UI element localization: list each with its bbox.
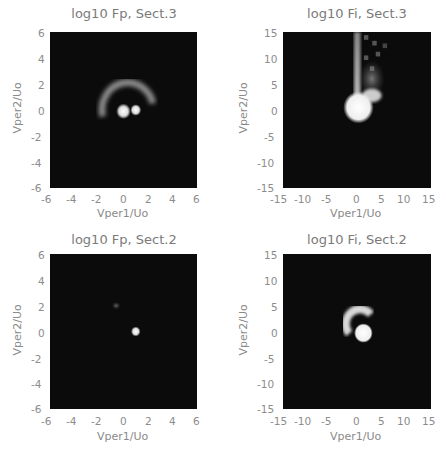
x-tick: 10	[397, 193, 410, 205]
x-tick: 4	[169, 193, 176, 205]
x-tick: 4	[169, 415, 176, 427]
x-tick: -5	[321, 415, 331, 427]
x-axis-label: Vper1/Uo	[330, 430, 381, 443]
x-tick: 2	[145, 193, 152, 205]
x-tick: -6	[41, 415, 51, 427]
x-tick: 10	[397, 415, 410, 427]
x-tick: 5	[378, 415, 385, 427]
x-tick: -6	[41, 193, 51, 205]
x-axis-label: Vper1/Uo	[330, 207, 381, 220]
x-axis-label: Vper1/Uo	[97, 207, 148, 220]
y-tick: -2	[31, 131, 41, 143]
y-axis-label: Vper2/Uo	[237, 306, 250, 356]
chart-title: log10 Fi, Sect.3	[283, 6, 431, 21]
x-tick: 6	[193, 193, 200, 205]
heatmap-plot-area	[50, 254, 197, 409]
x-tick: -2	[91, 193, 101, 205]
y-tick: 0	[38, 327, 45, 339]
x-tick: 15	[422, 193, 435, 205]
y-axis-label: Vper2/Uo	[11, 84, 24, 134]
y-tick: 0	[271, 105, 278, 117]
y-tick: -5	[264, 353, 274, 365]
x-tick: -15	[270, 415, 287, 427]
x-tick: -15	[270, 193, 287, 205]
y-tick: -6	[31, 182, 41, 194]
x-tick: -10	[294, 193, 311, 205]
y-tick: 10	[264, 53, 277, 65]
heatmap-image	[50, 254, 197, 409]
x-tick: 0	[353, 193, 360, 205]
y-axis-label: Vper2/Uo	[11, 306, 24, 356]
x-tick: -4	[66, 415, 76, 427]
y-tick: 6	[38, 27, 45, 39]
chart-title: log10 Fp, Sect.3	[50, 6, 198, 21]
x-tick: 15	[422, 415, 435, 427]
y-tick: -5	[264, 131, 274, 143]
y-tick: 2	[38, 79, 45, 91]
y-tick: 15	[264, 27, 277, 39]
y-tick: 2	[38, 301, 45, 313]
chart-title: log10 Fi, Sect.2	[283, 232, 431, 247]
y-tick: -4	[31, 157, 41, 169]
y-axis-label: Vper2/Uo	[237, 84, 250, 134]
y-tick: 15	[264, 249, 277, 261]
x-tick: 0	[120, 193, 127, 205]
y-tick: -15	[257, 403, 274, 415]
x-tick: -10	[294, 415, 311, 427]
y-tick: 10	[264, 275, 277, 287]
y-tick: -2	[31, 353, 41, 365]
y-tick: -4	[31, 378, 41, 390]
y-tick: 5	[271, 301, 278, 313]
x-tick: -4	[66, 193, 76, 205]
x-tick: 2	[145, 415, 152, 427]
heatmap-plot-area	[283, 32, 431, 188]
y-tick: -10	[257, 157, 274, 169]
x-tick: 6	[193, 415, 200, 427]
x-axis-label: Vper1/Uo	[97, 430, 148, 443]
y-tick: -6	[31, 403, 41, 415]
x-tick: -5	[321, 193, 331, 205]
y-tick: 0	[271, 327, 278, 339]
y-tick: -10	[257, 378, 274, 390]
x-tick: 0	[120, 415, 127, 427]
y-tick: 5	[271, 79, 278, 91]
x-tick: -2	[91, 415, 101, 427]
heatmap-image	[50, 32, 197, 188]
y-tick: 4	[38, 275, 45, 287]
y-tick: 4	[38, 53, 45, 65]
x-tick: 0	[353, 415, 360, 427]
heatmap-image	[283, 254, 431, 409]
heatmap-image	[283, 32, 431, 188]
heatmap-plot-area	[50, 32, 197, 188]
chart-title: log10 Fp, Sect.2	[50, 232, 198, 247]
heatmap-plot-area	[283, 254, 431, 409]
x-tick: 5	[378, 193, 385, 205]
y-tick: 0	[38, 105, 45, 117]
y-tick: 6	[38, 249, 45, 261]
